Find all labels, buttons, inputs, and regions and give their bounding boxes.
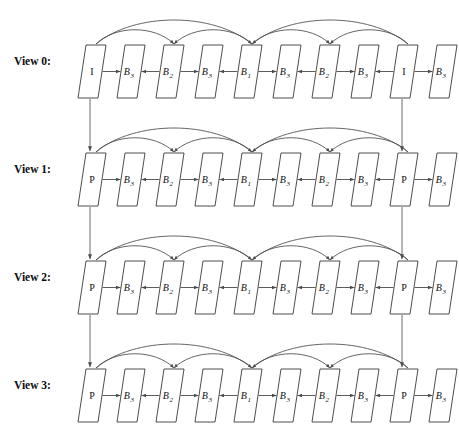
frame-label: P	[89, 282, 95, 293]
prediction-arc-view-3-4	[330, 354, 408, 368]
frame-view-3-4: B1	[234, 369, 262, 422]
prediction-arc-view-2-4	[330, 246, 408, 260]
frame-view-0-1: B3	[117, 45, 145, 98]
frame-label-subscript: 3	[363, 288, 368, 296]
frame-label-subscript: 1	[247, 396, 251, 404]
frame-label-subscript: 3	[441, 396, 446, 404]
frame-label-subscript: 3	[285, 288, 290, 296]
frame-view-2-8: P	[390, 261, 418, 314]
frame-label-subscript: 3	[207, 180, 212, 188]
frame-view-0-8: I	[390, 45, 418, 98]
frame-label-subscript: 1	[247, 180, 251, 188]
view-label-1: View 1:	[14, 163, 51, 175]
frame-label-subscript: 3	[441, 180, 446, 188]
frame-label-subscript: 3	[207, 288, 212, 296]
frame-view-1-4: B1	[234, 153, 262, 206]
prediction-arc-view-0-2	[174, 30, 252, 44]
prediction-arc-view-2-2	[174, 246, 252, 260]
frame-view-2-2: B2	[156, 261, 184, 314]
frame-view-0-6: B2	[312, 45, 340, 98]
frame-view-1-6: B2	[312, 153, 340, 206]
frame-label-subscript: 3	[363, 180, 368, 188]
prediction-arc-view-3-0	[96, 354, 174, 368]
prediction-arc-view-0-0	[96, 30, 174, 44]
frame-view-3-9: B3	[429, 369, 457, 422]
prediction-arc-view-1-2	[174, 138, 252, 152]
frame-view-2-3: B3	[195, 261, 223, 314]
frame-view-2-5: B3	[273, 261, 301, 314]
view-labels-layer: View 0:View 1:View 2:View 3:	[14, 55, 51, 391]
frame-view-1-0: P	[78, 153, 106, 206]
prediction-arc-view-1-4	[330, 138, 408, 152]
prediction-arc-view-2-1	[96, 236, 252, 260]
frame-label-subscript: 2	[325, 180, 329, 188]
prediction-arc-view-3-2	[174, 354, 252, 368]
frame-view-2-4: B1	[234, 261, 262, 314]
prediction-arc-view-1-5	[252, 128, 408, 152]
frame-view-3-3: B3	[195, 369, 223, 422]
frame-label-subscript: 2	[325, 396, 329, 404]
frame-label-subscript: 3	[285, 180, 290, 188]
frame-view-3-6: B2	[312, 369, 340, 422]
frame-label: P	[401, 174, 407, 185]
frame-view-3-0: P	[78, 369, 106, 422]
frame-label: P	[401, 282, 407, 293]
frame-view-1-8: P	[390, 153, 418, 206]
frame-label-subscript: 3	[129, 180, 134, 188]
frame-view-2-6: B2	[312, 261, 340, 314]
frame-label-subscript: 2	[169, 72, 173, 80]
frame-label-subscript: 1	[247, 72, 251, 80]
prediction-arc-view-1-0	[96, 138, 174, 152]
frame-label-subscript: 2	[169, 396, 173, 404]
frame-view-0-3: B3	[195, 45, 223, 98]
temporal-prediction-arcs-layer	[96, 20, 433, 396]
frame-label-subscript: 1	[247, 288, 251, 296]
frame-view-0-9: B3	[429, 45, 457, 98]
frame-label-subscript: 2	[169, 288, 173, 296]
view-label-2: View 2:	[14, 271, 51, 283]
frame-label-subscript: 3	[441, 72, 446, 80]
frame-view-3-7: B3	[351, 369, 379, 422]
prediction-arc-view-2-5	[252, 236, 408, 260]
frame-view-1-7: B3	[351, 153, 379, 206]
frames-layer: IB3B2B3B1B3B2B3IB3PB3B2B3B1B3B2B3PB3PB3B…	[78, 45, 457, 422]
frame-view-2-7: B3	[351, 261, 379, 314]
prediction-arc-view-0-5	[252, 20, 408, 44]
prediction-arc-view-0-4	[330, 30, 408, 44]
frame-view-3-8: P	[390, 369, 418, 422]
frame-label: I	[90, 66, 93, 77]
frame-view-1-1: B3	[117, 153, 145, 206]
prediction-arc-view-1-1	[96, 128, 252, 152]
prediction-arc-view-3-3	[252, 354, 330, 368]
prediction-arc-view-2-3	[252, 246, 330, 260]
prediction-arc-view-2-0	[96, 246, 174, 260]
frame-view-2-9: B3	[429, 261, 457, 314]
frame-label-subscript: 3	[207, 396, 212, 404]
frame-label-subscript: 3	[129, 72, 134, 80]
frame-view-0-5: B3	[273, 45, 301, 98]
frame-view-2-1: B3	[117, 261, 145, 314]
frame-view-2-0: P	[78, 261, 106, 314]
frame-label-subscript: 2	[169, 180, 173, 188]
frame-label: P	[401, 390, 407, 401]
frame-label-subscript: 2	[325, 288, 329, 296]
frame-view-0-0: I	[78, 45, 106, 98]
prediction-arc-view-3-5	[252, 344, 408, 368]
frame-view-0-7: B3	[351, 45, 379, 98]
prediction-arc-view-1-3	[252, 138, 330, 152]
prediction-structure-diagram: IB3B2B3B1B3B2B3IB3PB3B2B3B1B3B2B3PB3PB3B…	[0, 0, 459, 443]
view-label-0: View 0:	[14, 55, 51, 67]
view-label-3: View 3:	[14, 379, 51, 391]
frame-view-1-3: B3	[195, 153, 223, 206]
frame-label: P	[89, 390, 95, 401]
frame-label-subscript: 3	[363, 72, 368, 80]
frame-label-subscript: 3	[363, 396, 368, 404]
frame-label-subscript: 3	[207, 72, 212, 80]
frame-label-subscript: 3	[129, 396, 134, 404]
frame-label-subscript: 3	[441, 288, 446, 296]
frame-view-1-5: B3	[273, 153, 301, 206]
frame-label: P	[89, 174, 95, 185]
frame-view-3-5: B3	[273, 369, 301, 422]
prediction-arc-view-0-3	[252, 30, 330, 44]
frame-label: I	[402, 66, 405, 77]
